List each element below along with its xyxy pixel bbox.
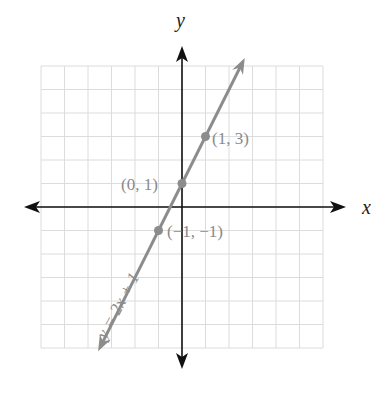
data-point — [178, 179, 187, 188]
point-label-1-3: (1, 3) — [212, 129, 249, 148]
data-point — [201, 132, 210, 141]
data-point — [154, 226, 163, 235]
x-axis-label: x — [361, 196, 371, 218]
equation-label: y = 2x + 1 — [92, 269, 144, 343]
coordinate-plane: y x (1, 3) (0, 1) (−1, −1) y = 2x + 1 — [0, 0, 386, 397]
point-label-neg1-neg1: (−1, −1) — [167, 222, 223, 241]
point-label-0-1: (0, 1) — [121, 175, 158, 194]
axes — [24, 46, 346, 369]
y-axis-label: y — [174, 9, 185, 32]
